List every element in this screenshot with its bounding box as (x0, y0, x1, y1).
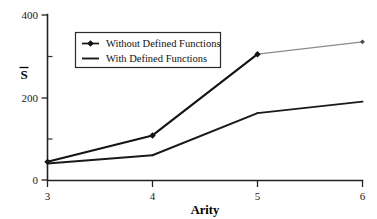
x-tick-label-6: 6 (360, 190, 366, 202)
y-axis-title: S (20, 67, 27, 82)
legend: Without Defined Functions With Defined F… (76, 33, 221, 68)
series-2-segment-1 (48, 155, 153, 163)
series-2 (48, 102, 363, 164)
line-chart-plot: 400 200 0 3 4 5 6 Arity S Without Define… (0, 0, 377, 219)
series-1-segment-3 (258, 42, 363, 54)
y-tick-labels: 400 200 0 (22, 9, 39, 186)
x-tick-label-5: 5 (255, 190, 261, 202)
x-axis-title: Arity (191, 203, 220, 217)
chart-container: 400 200 0 3 4 5 6 Arity S Without Define… (0, 0, 377, 219)
series-2-segment-2 (153, 113, 258, 155)
x-tick-label-3: 3 (45, 190, 51, 202)
x-tick-labels: 3 4 5 6 (45, 190, 366, 202)
x-tick-label-4: 4 (150, 190, 156, 202)
y-axis-title-group: S (20, 67, 29, 82)
y-tick-label-400: 400 (22, 9, 39, 21)
series-1-segment-1 (48, 135, 153, 161)
y-tick-label-200: 200 (22, 92, 39, 104)
series-2-segment-3 (258, 102, 363, 114)
data-point-marker (360, 39, 365, 44)
y-tick-label-0: 0 (33, 174, 39, 186)
legend-label-2: With Defined Functions (106, 53, 207, 64)
legend-label-1: Without Defined Functions (106, 38, 220, 49)
